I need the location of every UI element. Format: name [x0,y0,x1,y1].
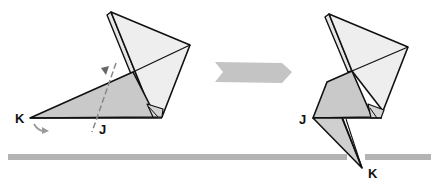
label-j-before: J [99,122,106,137]
label-k-after: K [368,166,378,181]
origami-diagram: K J J K [0,0,444,186]
label-j-after: J [299,112,306,127]
baseline-left-segment [8,154,347,160]
shaded-flap-k [313,118,362,168]
shaded-flap-k [30,72,156,118]
label-k-before: K [15,111,25,126]
step-arrow-icon [215,62,292,83]
baseline [8,154,431,160]
fold-indicator-icon [101,66,109,75]
curved-arrow-head-icon [42,127,49,134]
baseline-right-segment [365,154,431,160]
figure-before: K J [15,12,190,137]
